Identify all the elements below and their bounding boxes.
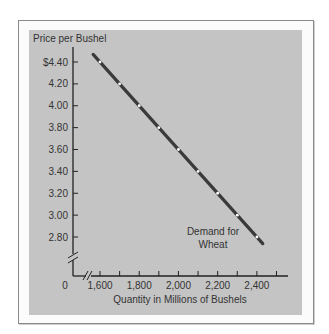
y-tick-label: 3.80 <box>49 122 69 133</box>
data-point <box>157 126 160 129</box>
y-tick-label: 4.20 <box>49 78 69 89</box>
x-tick-label: 1,800 <box>127 280 152 291</box>
y-tick-label: 3.20 <box>49 188 69 199</box>
y-tick-label: 3.60 <box>49 144 69 155</box>
y-tick-label: 3.40 <box>49 166 69 177</box>
data-point <box>99 61 102 64</box>
y-axis-label: Price per Bushel <box>33 33 106 44</box>
data-point <box>255 236 258 239</box>
origin-label: 0 <box>62 280 68 291</box>
x-tick-label: 2,200 <box>205 280 230 291</box>
x-tick-label: 1,600 <box>87 280 112 291</box>
y-tick-label: $4.40 <box>43 57 68 68</box>
data-point <box>197 170 200 173</box>
data-point <box>216 192 219 195</box>
data-point <box>138 104 141 107</box>
curve-label-line2: Wheat <box>199 239 228 250</box>
x-tick-label: 2,000 <box>166 280 191 291</box>
demand-chart: $4.404.204.003.803.603.403.203.002.80 1,… <box>0 0 329 334</box>
y-tick-label: 2.80 <box>49 232 69 243</box>
x-ticks: 1,6001,8002,0002,2002,400 <box>87 271 276 291</box>
curve-label-line1: Demand for <box>187 226 240 237</box>
data-point <box>236 214 239 217</box>
data-point <box>118 82 121 85</box>
x-axis-label: Quantity in Millions of Bushels <box>113 294 246 305</box>
data-point <box>177 148 180 151</box>
y-tick-label: 4.00 <box>49 100 69 111</box>
y-tick-label: 3.00 <box>49 210 69 221</box>
x-tick-label: 2,400 <box>244 280 269 291</box>
